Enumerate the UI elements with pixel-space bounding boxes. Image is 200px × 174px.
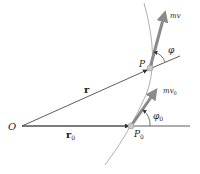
phi-arc (154, 52, 165, 62)
mv-label: mv (170, 12, 181, 20)
phi0-label: φ0 (153, 111, 163, 122)
mv0-arrow (131, 93, 154, 126)
particle-P (147, 65, 153, 71)
r-vector (22, 70, 147, 126)
P0-label: P0 (133, 129, 144, 140)
angular-momentum-diagram: O r r0 P P0 mv mv0 φ φ0 (0, 0, 200, 174)
origin-label: O (8, 121, 16, 132)
phi-label: φ (168, 45, 175, 55)
phi0-arc (143, 110, 150, 126)
r0-label: r0 (66, 129, 75, 141)
r-label: r (84, 84, 90, 95)
trajectory-curve (105, 3, 153, 165)
P-label: P (138, 59, 146, 69)
mv0-label: mv0 (163, 87, 177, 96)
